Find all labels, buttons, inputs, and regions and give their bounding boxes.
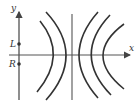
x-axis-label: x: [129, 43, 134, 53]
left-curve-outer: [46, 12, 66, 100]
left-curve-inner: [37, 21, 53, 92]
y-axis-label: y: [10, 3, 17, 13]
point-r-dot: [17, 62, 21, 66]
point-l-label: L: [9, 39, 16, 49]
point-l-dot: [17, 42, 21, 46]
field-line-diagram: y x L R: [0, 0, 140, 108]
point-r-label: R: [8, 59, 16, 69]
right-curve-3: [103, 24, 124, 89]
diagram-canvas: y x L R: [0, 0, 140, 108]
